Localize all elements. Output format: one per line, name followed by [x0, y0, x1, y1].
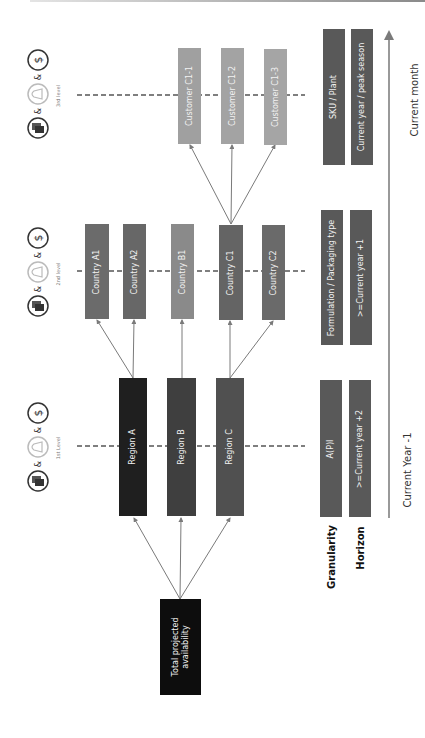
- granularity-text: SKU / Plant: [329, 75, 339, 119]
- customer-label: Customer C1-1: [185, 66, 195, 126]
- region-label: Region B: [177, 429, 187, 464]
- dollar-icon: $: [32, 410, 45, 417]
- region-label: Region C: [225, 429, 235, 465]
- country-b1-box: Country B1: [171, 224, 194, 319]
- country-c1-box: Country C1: [219, 225, 243, 320]
- root-label: Total projected availability: [171, 607, 191, 687]
- horizon-title: Horizon: [355, 526, 366, 569]
- country-label: Country B1: [178, 249, 188, 294]
- customer-label: Customer C1-3: [271, 67, 281, 127]
- region-c-box: Region C: [216, 378, 244, 516]
- granularity-bar-1: A(P)I: [320, 380, 342, 517]
- region-b-box: Region B: [167, 378, 196, 516]
- country-label: Country A2: [130, 249, 140, 294]
- granularity-title: Granularity: [326, 525, 337, 589]
- horizon-text: >=Current year +2: [355, 409, 365, 487]
- region-a-box: Region A: [119, 378, 147, 516]
- customer-label: Customer C1-2: [228, 66, 238, 126]
- horizon-bar-3: Current year / peak season: [351, 29, 373, 165]
- timeline-end-label: Current month: [409, 63, 420, 136]
- granularity-text: A(P)I: [326, 439, 336, 458]
- country-label: Country C2: [269, 250, 279, 295]
- svg-text:&: &: [34, 461, 43, 467]
- dollar-icon: $: [32, 235, 45, 242]
- country-label: Country A1: [92, 249, 102, 294]
- customer-c1-1-box: Customer C1-1: [178, 48, 201, 144]
- country-label: Country C1: [226, 250, 236, 295]
- granularity-text: Formulation / Packaging type: [327, 219, 337, 335]
- customer-c1-2-box: Customer C1-2: [221, 48, 244, 144]
- country-a1-box: Country A1: [85, 224, 109, 319]
- horizon-bar-2: >=Current year +1: [350, 210, 372, 345]
- svg-text:&: &: [34, 74, 43, 80]
- horizon-bar-1: >=Current year +2: [349, 380, 371, 517]
- region-label: Region A: [128, 429, 138, 464]
- dollar-icon: $: [32, 57, 45, 64]
- horizon-text: Current year / peak season: [357, 43, 367, 151]
- granularity-bar-2: Formulation / Packaging type: [321, 210, 343, 345]
- root-box: Total projected availability: [160, 599, 201, 695]
- svg-text:&: &: [34, 108, 43, 114]
- level-1-label: 1st Level: [55, 437, 61, 460]
- customer-c1-3-box: Customer C1-3: [264, 49, 287, 145]
- country-a2-box: Country A2: [123, 224, 146, 319]
- horizon-text: >=Current year +1: [356, 238, 366, 316]
- svg-text:&: &: [34, 252, 43, 258]
- country-c2-box: Country C2: [262, 225, 285, 320]
- svg-text:&: &: [34, 427, 43, 433]
- level-2-label: 2nd level: [55, 262, 61, 285]
- level-3-label: 3rd level: [55, 85, 61, 107]
- granularity-bar-3: SKU / Plant: [323, 29, 345, 165]
- svg-text:&: &: [34, 286, 43, 292]
- timeline-start-label: Current Year -1: [402, 432, 413, 507]
